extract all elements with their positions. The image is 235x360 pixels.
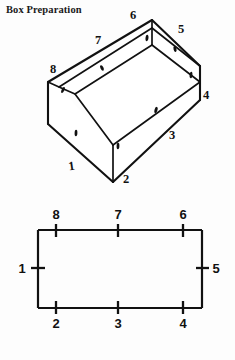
- rect-label-4: 4: [179, 316, 187, 331]
- box-preparation-figure: 1 2 3 4 5 6 7 8: [0, 0, 235, 360]
- box-label-5: 5: [178, 22, 184, 36]
- rect-label-3: 3: [114, 316, 121, 331]
- box-label-6: 6: [130, 8, 136, 22]
- box-label-2: 2: [123, 172, 129, 186]
- rect-tick-marks: [31, 224, 209, 314]
- rect-label-6: 6: [179, 207, 186, 222]
- box-label-3: 3: [169, 128, 175, 142]
- box-label-8: 8: [50, 62, 56, 76]
- box-base-rectangle: 8 7 6 5 4 3 2 1: [18, 207, 219, 331]
- rect-label-5: 5: [212, 261, 219, 276]
- rect-label-2: 2: [52, 316, 59, 331]
- box-label-4: 4: [203, 88, 210, 102]
- rect-label-7: 7: [114, 207, 121, 222]
- rect-label-8: 8: [52, 207, 59, 222]
- figure-page: Box Preparation: [0, 0, 235, 360]
- rect-label-1: 1: [18, 261, 25, 276]
- open-box-isometric: 1 2 3 4 5 6 7 8: [48, 8, 210, 186]
- box-label-1: 1: [67, 159, 75, 174]
- box-label-7: 7: [95, 33, 101, 47]
